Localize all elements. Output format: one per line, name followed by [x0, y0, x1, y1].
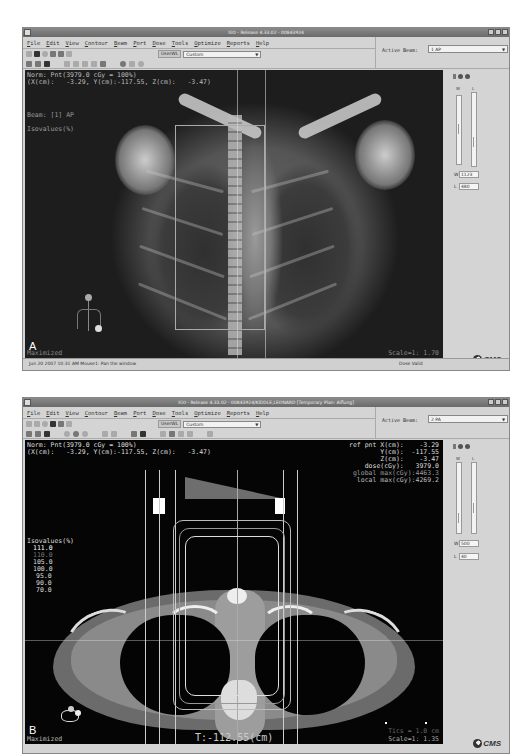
zoom-out-icon[interactable] — [35, 431, 41, 437]
point-tool-icon[interactable] — [120, 61, 126, 67]
close-button[interactable] — [502, 399, 508, 405]
layout-2-icon[interactable] — [169, 431, 175, 437]
level-field-label: L — [454, 184, 457, 189]
menu-port[interactable]: Port — [133, 40, 146, 46]
pin-icon[interactable] — [453, 74, 456, 79]
palette-icon[interactable] — [465, 444, 470, 449]
level-field[interactable]: 480 — [459, 183, 479, 190]
toolbar-secondary — [23, 429, 375, 439]
block-tool-icon[interactable] — [140, 431, 146, 437]
circle-tool-icon[interactable] — [42, 421, 48, 427]
view-tool-2-icon[interactable] — [73, 61, 79, 67]
menu-file[interactable]: File — [27, 410, 40, 416]
zoom-in-icon[interactable] — [26, 431, 32, 437]
delete-icon[interactable] — [100, 61, 106, 67]
user-wl-dropdown[interactable]: Custom — [183, 51, 261, 58]
menu-tools[interactable]: Tools — [172, 40, 189, 46]
layout-4-icon[interactable] — [187, 431, 193, 437]
window-controls — [488, 399, 508, 405]
pencil-tool-icon[interactable] — [58, 51, 64, 57]
view-3d-icon[interactable] — [73, 431, 79, 437]
menu-contour[interactable]: Contour — [85, 40, 108, 46]
ring-tool-icon[interactable] — [138, 61, 144, 67]
bev-viewport[interactable]: Norm: Pnt(3979.0 cGy = 100%) (X(cm): -3.… — [25, 70, 443, 358]
shield-tool-icon[interactable] — [50, 51, 56, 57]
menu-dose[interactable]: Dose — [152, 410, 165, 416]
shield-tool-icon[interactable] — [50, 421, 56, 427]
layout-1-icon[interactable] — [160, 431, 166, 437]
rotate-icon[interactable] — [82, 431, 88, 437]
eye-icon[interactable] — [458, 74, 463, 79]
select-tool-icon[interactable] — [34, 51, 40, 57]
edit-tool-icon[interactable] — [66, 421, 72, 427]
select-tool-icon[interactable] — [34, 421, 40, 427]
title-bar[interactable]: XiO - Release 4.33.02 - 00843924 — [23, 28, 509, 37]
menu-reports[interactable]: Reports — [227, 410, 250, 416]
eye-icon[interactable] — [458, 444, 463, 449]
pencil-tool-icon[interactable] — [58, 421, 64, 427]
pin-icon[interactable] — [453, 444, 456, 449]
minimize-button[interactable] — [488, 29, 494, 35]
field-edge-line — [265, 70, 266, 358]
window-field[interactable]: 1123 — [459, 171, 479, 178]
palette-icon[interactable] — [465, 74, 470, 79]
undo-icon[interactable] — [26, 421, 32, 427]
flag-tool-icon[interactable] — [129, 61, 135, 67]
save-icon[interactable] — [44, 431, 50, 437]
maximize-button[interactable] — [495, 399, 501, 405]
window-column-label: W — [456, 456, 460, 461]
layout-3-icon[interactable] — [178, 431, 184, 437]
split-tool-icon[interactable] — [111, 431, 117, 437]
transverse-viewport[interactable]: Norm: Pnt(3979.0 cGy = 100%) (X(cm): -3.… — [25, 440, 443, 744]
maximize-button[interactable] — [495, 29, 501, 35]
menu-optimize[interactable]: Optimize — [194, 40, 221, 46]
view-2d-icon[interactable] — [64, 431, 70, 437]
view-tool-3-icon[interactable] — [82, 61, 88, 67]
menu-contour[interactable]: Contour — [85, 410, 108, 416]
gantry-icon[interactable] — [131, 431, 137, 437]
menu-help[interactable]: Help — [256, 410, 269, 416]
flag-tool-icon[interactable] — [207, 431, 213, 437]
active-beam-panel: Active Beam: 2 PA — [375, 407, 509, 439]
circle-tool-icon[interactable] — [42, 51, 48, 57]
save-icon[interactable] — [44, 61, 50, 67]
title-bar[interactable]: XiO - Release 4.33.02 - 00843924/KIDDLE,… — [23, 398, 509, 407]
window-field-label: W — [454, 541, 458, 546]
menu-dose[interactable]: Dose — [152, 40, 165, 46]
undo-icon[interactable] — [26, 51, 32, 57]
zoom-in-icon[interactable] — [26, 61, 32, 67]
window-slider[interactable] — [456, 95, 462, 165]
level-field[interactable]: 40 — [459, 553, 479, 560]
level-slider[interactable] — [471, 92, 477, 167]
minimize-button[interactable] — [488, 399, 494, 405]
u-tool-icon[interactable] — [102, 431, 108, 437]
level-slider[interactable] — [471, 462, 477, 534]
menu-view[interactable]: View — [66, 40, 79, 46]
menu-edit[interactable]: Edit — [46, 40, 59, 46]
view-tool-1-icon[interactable] — [64, 61, 70, 67]
window-field[interactable]: 500 — [459, 540, 479, 547]
menu-help[interactable]: Help — [256, 40, 269, 46]
menu-edit[interactable]: Edit — [46, 410, 59, 416]
view-tool-4-icon[interactable] — [91, 61, 97, 67]
maximized-text: Maximized — [27, 350, 62, 357]
user-wl-dropdown[interactable]: Custom — [183, 421, 261, 428]
menu-beam[interactable]: Beam — [114, 410, 127, 416]
menu-reports[interactable]: Reports — [227, 40, 250, 46]
menu-tools[interactable]: Tools — [172, 410, 189, 416]
menu-view[interactable]: View — [66, 410, 79, 416]
menu-optimize[interactable]: Optimize — [194, 410, 221, 416]
user-wl-label: UserWL — [158, 50, 181, 58]
close-button[interactable] — [502, 29, 508, 35]
window-slider[interactable] — [456, 462, 462, 534]
status-bar: Jun 20 2007 10:31 AM Mouse1: Pan the win… — [23, 358, 509, 370]
active-beam-dropdown[interactable]: 2 PA — [428, 415, 508, 423]
menu-beam[interactable]: Beam — [114, 40, 127, 46]
menu-port[interactable]: Port — [133, 410, 146, 416]
beam-field-outline[interactable] — [175, 125, 265, 330]
active-beam-dropdown[interactable]: 1 AP — [428, 45, 508, 53]
zoom-out-icon[interactable] — [35, 61, 41, 67]
window-level-panel: W L W 1123 L 480 — [445, 70, 509, 358]
menu-file[interactable]: File — [27, 40, 40, 46]
edit-tool-icon[interactable] — [66, 51, 72, 57]
